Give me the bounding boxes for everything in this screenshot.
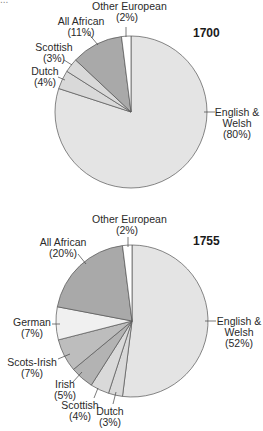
label-1700-dutch: Dutch(4%) <box>30 66 60 88</box>
pie-chart-1755 <box>56 245 208 397</box>
cropped-caption-fragment: ... <box>0 0 8 5</box>
label-1755-scots-irish: Scots-Irish(7%) <box>4 357 60 379</box>
label-1755-irish: Irish(5%) <box>52 379 78 401</box>
label-1755-other-european: Other European(2%) <box>92 214 162 236</box>
pie-slice-english-welsh <box>122 245 208 397</box>
label-1700-english-welsh: English &Welsh(80%) <box>212 107 262 140</box>
pie-1755-title: 1755 <box>193 234 220 248</box>
label-1755-all-african: All African(20%) <box>38 237 88 259</box>
label-1700-all-african: All African(11%) <box>56 16 106 38</box>
label-1700-scottish: Scottish(3%) <box>34 42 74 64</box>
label-1755-dutch: Dutch(3%) <box>94 406 126 428</box>
pie-chart-1700 <box>55 36 207 188</box>
label-1755-english-welsh: English &Welsh(52%) <box>214 316 263 349</box>
label-1755-german: German(7%) <box>10 317 54 339</box>
pie-1700-title: 1700 <box>193 26 220 40</box>
